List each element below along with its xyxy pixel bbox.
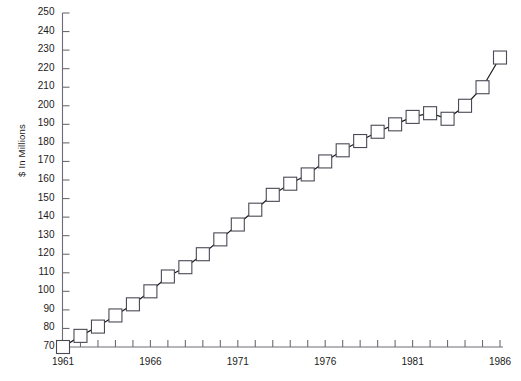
data-point-marker	[406, 110, 419, 123]
x-axis-tick-label: 1961	[43, 356, 83, 367]
y-axis-tick-label: 200	[29, 99, 55, 110]
y-axis-tick-label: 160	[29, 173, 55, 184]
data-point-marker	[371, 125, 384, 138]
y-axis-tick-label: 130	[29, 229, 55, 240]
x-axis-tick-label: 1986	[480, 356, 520, 367]
y-axis-tick-label: 110	[29, 266, 55, 277]
y-axis-tick-label: 190	[29, 117, 55, 128]
data-point-marker	[459, 99, 472, 112]
data-point-marker	[144, 285, 157, 298]
data-point-marker	[266, 188, 279, 201]
data-point-marker	[301, 168, 314, 181]
y-axis-tick-label: 120	[29, 247, 55, 258]
data-point-marker	[161, 270, 174, 283]
data-point-marker	[179, 261, 192, 274]
data-point-marker	[284, 177, 297, 190]
y-axis-tick-label: 150	[29, 192, 55, 203]
data-point-marker	[91, 320, 104, 333]
data-point-marker	[494, 51, 507, 64]
data-point-marker	[354, 135, 367, 148]
y-axis-tick-label: 140	[29, 210, 55, 221]
y-axis-tick-label: 230	[29, 43, 55, 54]
y-axis-tick-label: 100	[29, 284, 55, 295]
data-point-marker	[389, 118, 402, 131]
y-axis-tick-label: 90	[29, 303, 55, 314]
data-point-marker	[476, 81, 489, 94]
data-point-marker	[249, 203, 262, 216]
data-point-marker	[231, 218, 244, 231]
line-chart-plot	[0, 0, 521, 381]
y-axis-tick-label: 220	[29, 62, 55, 73]
data-point-marker	[74, 329, 87, 342]
chart-canvas: $ In Millions 25024023022021020019018017…	[0, 0, 521, 381]
x-axis-tick-label: 1976	[305, 356, 345, 367]
data-point-marker	[126, 298, 139, 311]
y-axis-tick-label: 70	[29, 340, 55, 351]
data-point-marker	[441, 112, 454, 125]
x-axis-tick-label: 1966	[130, 356, 170, 367]
y-axis-tick-label: 180	[29, 136, 55, 147]
data-point-marker	[196, 248, 209, 261]
y-axis-tick-label: 210	[29, 80, 55, 91]
x-axis-tick-label: 1981	[393, 356, 433, 367]
data-point-marker	[109, 309, 122, 322]
data-point-marker	[214, 233, 227, 246]
data-point-marker	[319, 155, 332, 168]
data-point-marker	[424, 107, 437, 120]
y-axis-tick-label: 80	[29, 321, 55, 332]
x-axis-tick-label: 1971	[218, 356, 258, 367]
data-point-marker	[336, 144, 349, 157]
y-axis-tick-label: 250	[29, 6, 55, 17]
y-axis-tick-label: 240	[29, 25, 55, 36]
y-axis-tick-label: 170	[29, 154, 55, 165]
data-point-marker	[57, 341, 70, 354]
